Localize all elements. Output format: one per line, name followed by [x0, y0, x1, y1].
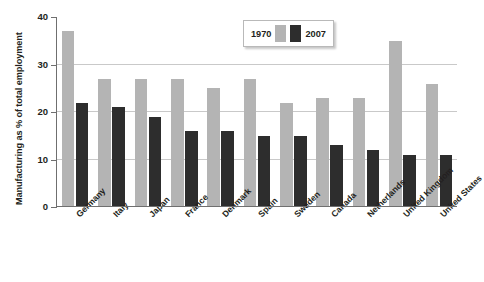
- legend-label-2007: 2007: [305, 29, 325, 39]
- bar-1970-france: [171, 79, 184, 207]
- legend-swatch-1970: [275, 25, 286, 42]
- bar-1970-denmark: [207, 88, 220, 207]
- chart-legend: 1970 2007: [243, 20, 334, 47]
- y-axis-title: Manufacturing as % of total employment: [14, 5, 28, 205]
- y-tick-label-0: 0: [8, 201, 48, 212]
- bar-1970-germany: [62, 31, 75, 207]
- bar-2007-germany: [76, 103, 89, 208]
- x-axis-line: [56, 206, 457, 207]
- bar-1970-netherlands: [353, 98, 366, 207]
- y-axis-line: [56, 17, 57, 207]
- y-tick-label-40: 40: [8, 11, 48, 22]
- y-tick-label-30: 30: [8, 59, 48, 70]
- bar-1970-canada: [316, 98, 329, 207]
- bar-2007-france: [185, 131, 198, 207]
- bar-2007-denmark: [221, 131, 234, 207]
- bar-2007-japan: [149, 117, 162, 207]
- bar-2007-sweden: [294, 136, 307, 207]
- bar-2007-spain: [258, 136, 271, 207]
- bar-2007-italy: [112, 107, 125, 207]
- bar-1970-japan: [135, 79, 148, 207]
- y-tick-label-10: 10: [8, 154, 48, 165]
- y-tick-label-20: 20: [8, 106, 48, 117]
- bar-2007-canada: [330, 145, 343, 207]
- bar-1970-sweden: [280, 103, 293, 208]
- legend-swatch-2007: [290, 25, 301, 42]
- legend-label-1970: 1970: [251, 29, 271, 39]
